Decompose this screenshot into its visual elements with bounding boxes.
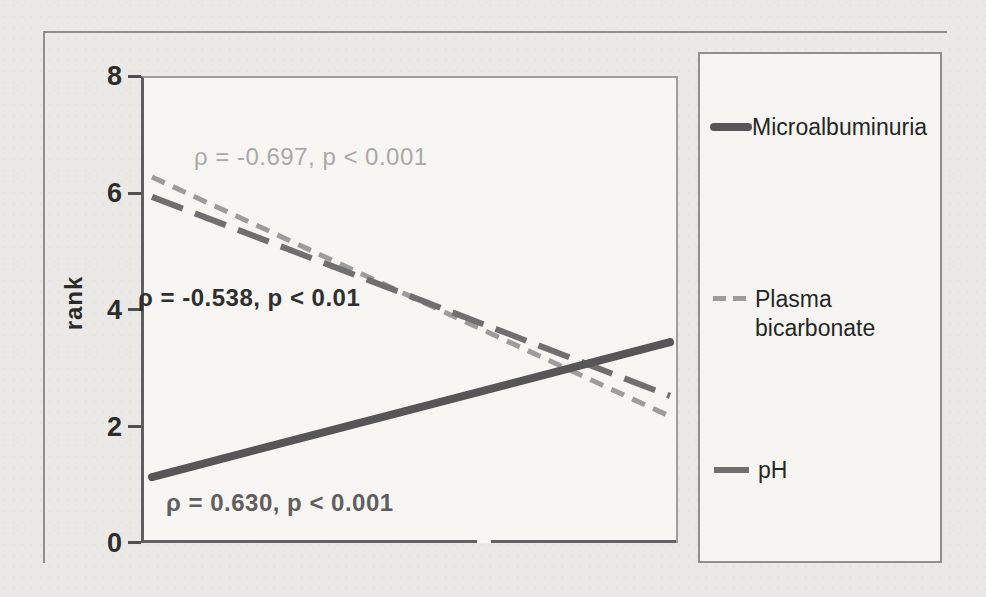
legend-label-plasma-bicarbonate: Plasma bicarbonate bbox=[755, 285, 905, 343]
annotation-plasma-bicarbonate-rho: ρ = -0.697, p < 0.001 bbox=[194, 142, 428, 172]
ytick-label-8: 8 bbox=[52, 60, 122, 92]
annotation-ph-rho: ρ = -0.538, p < 0.01 bbox=[138, 283, 360, 313]
ytick-mark-2 bbox=[128, 425, 141, 428]
legend-swatch-plasma-bicarbonate bbox=[713, 296, 746, 301]
ytick-label-4: 4 bbox=[52, 294, 122, 326]
legend-swatch-ph bbox=[714, 467, 749, 473]
x-axis-segment-left bbox=[144, 540, 477, 543]
annotation-microalbuminuria-rho: ρ = 0.630, p < 0.001 bbox=[166, 488, 394, 518]
x-axis-segment-right bbox=[491, 540, 676, 543]
legend-label-ph: pH bbox=[758, 456, 858, 485]
ytick-label-2: 2 bbox=[52, 411, 122, 443]
figure-border-left bbox=[43, 31, 45, 563]
figure-canvas: rank 8 6 4 2 0 ρ = -0.697, p < 0.001 ρ =… bbox=[0, 0, 986, 597]
ytick-label-6: 6 bbox=[52, 177, 122, 209]
legend-label-microalbuminuria: Microalbuminuria bbox=[752, 113, 938, 142]
figure-border-top bbox=[43, 31, 947, 33]
ytick-mark-0 bbox=[128, 541, 141, 544]
ytick-mark-6 bbox=[128, 192, 141, 195]
ytick-label-0: 0 bbox=[52, 527, 122, 559]
legend-box: Microalbuminuria Plasma bicarbonate pH bbox=[698, 52, 942, 563]
legend-swatch-microalbuminuria bbox=[710, 123, 752, 131]
ytick-mark-8 bbox=[128, 75, 141, 78]
